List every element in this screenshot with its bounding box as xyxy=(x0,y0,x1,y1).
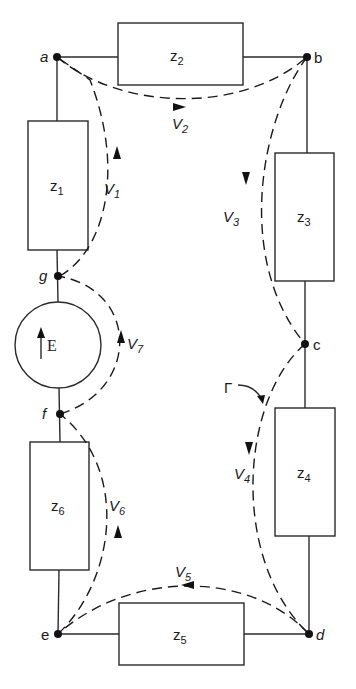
gamma-arrow-icon xyxy=(257,395,265,404)
node-label-e: e xyxy=(41,626,49,643)
svg-text:E: E xyxy=(47,337,57,354)
node-label-a: a xyxy=(40,48,48,65)
impedance-z2: z2 xyxy=(118,23,243,85)
node-e xyxy=(54,630,62,638)
impedance-z6: z6 xyxy=(30,442,89,570)
circuit-diagram: z2 z1 z3 z4 z6 z5 E xyxy=(0,0,356,689)
arrow-V6-icon xyxy=(114,525,122,538)
node-label-d: d xyxy=(316,626,325,643)
node-c xyxy=(301,340,309,348)
svg-text:V3: V3 xyxy=(223,208,240,228)
voltage-labels: V1 V2 V3 V4 V5 V6 V7 Γ xyxy=(104,115,250,583)
impedance-z5: z5 xyxy=(119,603,244,665)
node-label-c: c xyxy=(313,336,321,353)
node-b xyxy=(303,53,311,61)
impedance-z1: z1 xyxy=(28,121,88,250)
arrow-V4-icon xyxy=(245,442,253,455)
node-a xyxy=(53,53,61,61)
svg-text:V1: V1 xyxy=(104,180,120,200)
svg-text:V6: V6 xyxy=(109,497,126,517)
svg-text:V2: V2 xyxy=(172,115,188,135)
arrow-V7-icon xyxy=(117,330,125,343)
node-d xyxy=(305,630,313,638)
node-label-g: g xyxy=(39,267,48,284)
contour-gamma-label: Γ xyxy=(224,379,232,396)
node-label-f: f xyxy=(42,405,48,422)
svg-text:V5: V5 xyxy=(175,563,192,583)
arrow-V3-icon xyxy=(242,172,250,185)
voltage-source-E: E xyxy=(15,302,101,388)
node-label-b: b xyxy=(314,49,322,66)
impedance-z3: z3 xyxy=(275,153,334,281)
arrow-V2-icon xyxy=(173,103,186,111)
svg-text:V4: V4 xyxy=(234,465,250,485)
impedance-z4: z4 xyxy=(275,408,335,536)
node-f xyxy=(56,410,64,418)
node-g xyxy=(54,272,62,280)
arrow-V1-icon xyxy=(113,146,121,159)
svg-text:V7: V7 xyxy=(127,335,144,355)
